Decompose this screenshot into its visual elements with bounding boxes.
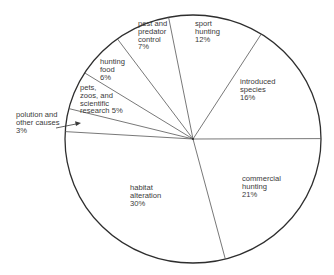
slice-label-hunting-food: hunting food 6% <box>100 58 125 81</box>
slice-label-pest-predator: pest and predator control 7% <box>138 20 167 51</box>
slice-label-introduced-species: introduced species 16% <box>240 78 275 101</box>
pie-center-point <box>192 138 194 140</box>
slice-label-habitat-alteration: habitat alteration 30% <box>130 184 161 207</box>
slice-label-pollution-other: polution and other causes 3% <box>16 111 59 134</box>
slice-label-commercial-hunting: commercial hunting 21% <box>242 175 281 198</box>
slice-label-sport-hunting: sport hunting 12% <box>195 20 220 43</box>
slice-label-pets-zoos-research: pets, zoos, and scientific research 5% <box>80 84 123 115</box>
